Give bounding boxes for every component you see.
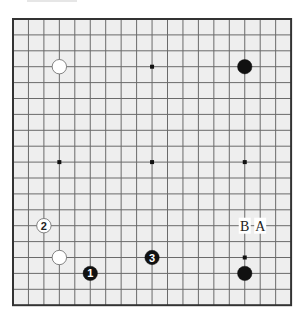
marker-label-a: A (255, 219, 266, 234)
star-point-icon (243, 160, 247, 164)
stone-icon (238, 266, 252, 280)
go-board: BA 123 (0, 0, 305, 317)
move-number: 2 (41, 220, 47, 232)
white-stone-2: 2 (37, 219, 51, 233)
star-point-icon (150, 65, 154, 69)
black-stone (238, 266, 252, 280)
move-number: 1 (87, 267, 93, 279)
marker-label-b: B (240, 219, 249, 234)
stone-icon (52, 59, 66, 73)
move-number: 3 (149, 252, 155, 264)
star-point-icon (243, 256, 247, 260)
black-stone (238, 59, 252, 73)
stone-icon (238, 59, 252, 73)
black-stone-3: 3 (145, 250, 159, 264)
star-point-icon (57, 160, 61, 164)
black-stone-1: 1 (83, 266, 97, 280)
stone-icon (52, 250, 66, 264)
star-point-icon (150, 160, 154, 164)
white-stone (52, 250, 66, 264)
white-stone (52, 59, 66, 73)
